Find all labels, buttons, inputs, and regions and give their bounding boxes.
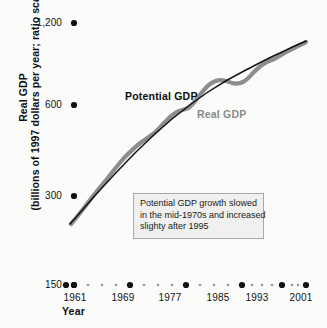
x-axis-tick-dots [63,282,309,288]
annotation-line-2: in the mid-1970s and increased [140,210,258,222]
x-tick-label-1969: 1969 [103,292,143,303]
x-axis-title: Year [62,305,85,317]
x-tick-label-1961: 1961 [55,292,95,303]
y-tick-label-1200: 1,200 [16,17,62,28]
annotation-line-1: Potential GDP growth slowed [140,198,258,210]
annotation-box: Potential GDP growth slowed in the mid-1… [133,193,264,239]
y-tick-label-150: 150 [16,279,62,290]
x-tick-label-1985: 1985 [198,292,238,303]
x-tick-label-2001: 2001 [281,292,321,303]
x-tick-label-1977: 1977 [150,292,190,303]
x-tick-label-1993: 1993 [237,292,277,303]
y-axis-tick-dots [71,20,77,288]
series-label-potential-gdp: Potential GDP [125,90,198,102]
y-tick-label-300: 300 [16,190,62,201]
y-tick-label-600: 600 [16,99,62,110]
series-label-real-gdp: Real GDP [197,108,246,120]
gdp-chart-figure: Real GDP (billions of 1997 dollars per y… [0,0,327,328]
annotation-line-3: slighty after 1995 [140,221,258,233]
